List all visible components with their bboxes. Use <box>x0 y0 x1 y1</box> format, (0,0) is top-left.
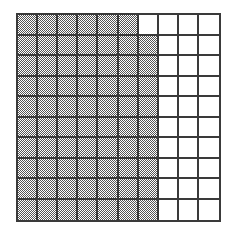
grid-cell-shaded <box>18 200 36 221</box>
grid-cell-shaded <box>98 36 116 55</box>
grid-cell-shaded <box>58 159 76 178</box>
grid-cell-shaded <box>18 77 36 96</box>
grid-cell-shaded <box>58 97 76 116</box>
grid-cell-shaded <box>78 15 96 34</box>
grid-cell-shaded <box>38 77 56 96</box>
grid-cell-unshaded <box>159 77 177 96</box>
grid-cell-unshaded <box>159 200 177 221</box>
grid-cell-shaded <box>38 200 56 221</box>
grid-cell-shaded <box>58 36 76 55</box>
grid-cell-unshaded <box>159 36 177 55</box>
grid-cell-shaded <box>58 56 76 75</box>
grid-cell-shaded <box>18 56 36 75</box>
grid-cell-shaded <box>98 179 116 198</box>
hundredths-grid-figure <box>0 0 235 238</box>
grid-cell-shaded <box>98 77 116 96</box>
grid-cell-unshaded <box>199 56 219 75</box>
grid-cell-shaded <box>78 77 96 96</box>
grid-cell-shaded <box>18 159 36 178</box>
grid-cell-shaded <box>139 56 157 75</box>
grid-cell-shaded <box>18 179 36 198</box>
grid-cell-shaded <box>98 138 116 157</box>
hundredths-grid <box>16 13 221 222</box>
grid-cell-unshaded <box>199 200 219 221</box>
grid-cell-shaded <box>78 36 96 55</box>
grid-cell-shaded <box>58 200 76 221</box>
grid-cell-shaded <box>38 159 56 178</box>
grid-cell-unshaded <box>199 15 219 34</box>
grid-cell-shaded <box>139 179 157 198</box>
grid-cell-unshaded <box>179 179 197 198</box>
grid-cell-shaded <box>38 15 56 34</box>
grid-cell-shaded <box>119 159 137 178</box>
grid-cell-shaded <box>58 118 76 137</box>
grid-cell-shaded <box>119 15 137 34</box>
grid-cell-unshaded <box>179 97 197 116</box>
grid-cell-shaded <box>139 36 157 55</box>
grid-cell-shaded <box>139 138 157 157</box>
grid-cell-unshaded <box>179 77 197 96</box>
grid-cell-unshaded <box>179 200 197 221</box>
grid-cell-shaded <box>38 118 56 137</box>
grid-cell-shaded <box>119 138 137 157</box>
grid-cell-shaded <box>38 97 56 116</box>
grid-cell-shaded <box>58 15 76 34</box>
grid-cell-shaded <box>78 200 96 221</box>
grid-cell-shaded <box>78 56 96 75</box>
grid-cell-shaded <box>58 77 76 96</box>
grid-cell-shaded <box>98 200 116 221</box>
grid-cell-shaded <box>78 138 96 157</box>
grid-cell-unshaded <box>159 15 177 34</box>
grid-cell-unshaded <box>159 179 177 198</box>
grid-cell-shaded <box>58 138 76 157</box>
grid-cell-unshaded <box>199 118 219 137</box>
grid-cell-shaded <box>78 179 96 198</box>
grid-cell-unshaded <box>199 138 219 157</box>
grid-cell-shaded <box>78 97 96 116</box>
grid-cell-shaded <box>98 15 116 34</box>
grid-cell-shaded <box>139 77 157 96</box>
grid-cell-unshaded <box>199 77 219 96</box>
grid-cell-unshaded <box>179 36 197 55</box>
grid-cell-unshaded <box>159 118 177 137</box>
grid-cell-shaded <box>98 118 116 137</box>
grid-cell-shaded <box>139 200 157 221</box>
grid-cell-shaded <box>139 97 157 116</box>
grid-cell-shaded <box>18 138 36 157</box>
grid-cell-unshaded <box>159 159 177 178</box>
grid-cell-unshaded <box>199 159 219 178</box>
grid-cell-shaded <box>119 97 137 116</box>
grid-cell-shaded <box>119 77 137 96</box>
grid-cell-shaded <box>18 36 36 55</box>
grid-cell-unshaded <box>179 118 197 137</box>
grid-cell-shaded <box>98 159 116 178</box>
grid-cell-unshaded <box>199 97 219 116</box>
grid-cell-shaded <box>139 159 157 178</box>
grid-cell-shaded <box>78 118 96 137</box>
grid-cell-shaded <box>78 159 96 178</box>
grid-cell-unshaded <box>179 56 197 75</box>
grid-cell-shaded <box>18 15 36 34</box>
grid-cell-shaded <box>58 179 76 198</box>
grid-cell-shaded <box>119 118 137 137</box>
grid-cell-unshaded <box>159 138 177 157</box>
grid-cell-unshaded <box>139 15 157 34</box>
grid-cell-unshaded <box>199 179 219 198</box>
grid-cell-shaded <box>18 118 36 137</box>
grid-cell-unshaded <box>179 15 197 34</box>
grid-cell-shaded <box>38 36 56 55</box>
grid-cell-unshaded <box>199 36 219 55</box>
grid-cell-shaded <box>119 179 137 198</box>
grid-cell-unshaded <box>159 56 177 75</box>
grid-cell-shaded <box>38 138 56 157</box>
grid-cell-unshaded <box>179 138 197 157</box>
grid-cell-shaded <box>38 179 56 198</box>
grid-cell-shaded <box>139 118 157 137</box>
grid-cell-shaded <box>119 200 137 221</box>
grid-cell-shaded <box>119 36 137 55</box>
grid-cell-shaded <box>98 56 116 75</box>
grid-cell-shaded <box>38 56 56 75</box>
grid-cell-shaded <box>18 97 36 116</box>
grid-cell-shaded <box>98 97 116 116</box>
grid-cell-shaded <box>119 56 137 75</box>
